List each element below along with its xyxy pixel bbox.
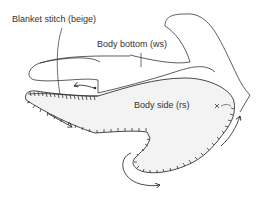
blanket-stitch-label: Blanket stitch (beige)	[12, 15, 96, 24]
body-side-label: Body side (rs)	[134, 101, 190, 110]
body-side-shape	[25, 78, 234, 173]
diagram-svg	[0, 0, 257, 202]
direction-arrow-left	[74, 85, 96, 89]
body-bottom-label: Body bottom (ws)	[97, 40, 167, 49]
body-bottom-edge	[40, 56, 130, 63]
blanket-stitch-leader	[57, 28, 62, 95]
diagram-canvas: Blanket stitch (beige) Body bottom (ws) …	[0, 0, 257, 202]
